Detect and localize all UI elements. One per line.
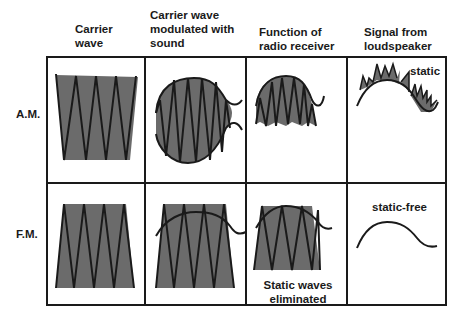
row-label-fm: F.M. <box>16 228 38 240</box>
static-free-label: static-free <box>372 200 427 214</box>
row-label-am: A.M. <box>16 108 40 120</box>
header-carrier-wave: Carrier wave <box>75 22 113 50</box>
header-radio-receiver: Function of radio receiver <box>259 25 334 53</box>
static-label: static <box>410 64 440 78</box>
fm-modulated-wave-figure <box>146 184 246 306</box>
header-modulated-wave: Carrier wave modulated with sound <box>150 8 234 50</box>
am-modulated-wave-figure <box>146 56 246 182</box>
am-receiver-figure <box>246 56 346 182</box>
static-waves-eliminated-label: Static waves eliminated <box>258 278 338 306</box>
fm-carrier-wave-figure <box>46 184 146 306</box>
header-loudspeaker-signal: Signal from loudspeaker <box>364 25 432 53</box>
am-carrier-wave-figure <box>46 56 146 182</box>
